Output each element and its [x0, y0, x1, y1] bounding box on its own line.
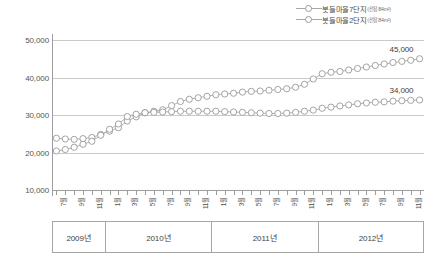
- year-label: 2011년: [253, 232, 277, 243]
- x-axis-tick-mark: [384, 191, 385, 195]
- x-axis-tick-label: 3월: [237, 197, 246, 206]
- x-axis-tick-label: 11월: [95, 197, 104, 209]
- gridline: [52, 78, 424, 79]
- legend-marker-icon: [296, 4, 322, 13]
- x-axis-tick-label: 3월: [343, 197, 352, 206]
- x-axis-tick-mark: [65, 191, 66, 195]
- x-axis-tick-mark: [136, 191, 137, 195]
- legend-sublabel-series-1: (전용84m²): [367, 5, 391, 12]
- gridline: [52, 153, 424, 154]
- x-axis-tick-mark: [145, 191, 146, 195]
- x-axis-tick-label: 1월: [325, 197, 334, 206]
- x-axis-tick-mark: [304, 191, 305, 195]
- y-axis-tick-label: 20,000: [3, 148, 49, 157]
- x-axis-tick-mark: [118, 191, 119, 195]
- x-axis-tick-mark: [340, 191, 341, 195]
- x-axis-tick-mark: [393, 191, 394, 195]
- x-axis-tick-mark: [251, 191, 252, 195]
- x-axis-tick-mark: [260, 191, 261, 195]
- x-axis-tick-mark: [198, 191, 199, 195]
- year-label: 2012년: [359, 232, 383, 243]
- year-separator: [318, 221, 319, 253]
- x-axis-tick-mark: [180, 191, 181, 195]
- x-axis-tick-label: 1월: [113, 197, 122, 206]
- x-axis-tick-mark: [225, 191, 226, 195]
- x-axis-tick-mark: [331, 191, 332, 195]
- x-axis-tick-mark: [278, 191, 279, 195]
- x-axis-tick-label: 5월: [254, 197, 263, 206]
- x-axis-tick-mark: [366, 191, 367, 195]
- x-axis-tick-label: 7월: [59, 197, 68, 206]
- x-axis-tick-mark: [296, 191, 297, 195]
- legend-label-series-2: 봇들마을2단지: [322, 15, 367, 25]
- x-axis-tick-mark: [269, 191, 270, 195]
- legend-item-series-2[interactable]: 봇들마을2단지 (전용84m²): [296, 14, 391, 25]
- x-axis-tick-mark: [83, 191, 84, 195]
- x-axis-tick-label: 5월: [148, 197, 157, 206]
- x-axis-tick-label: 9월: [183, 197, 192, 206]
- gridline: [52, 40, 424, 41]
- y-axis-tick-label: 10,000: [3, 186, 49, 195]
- x-axis-tick-mark: [242, 191, 243, 195]
- x-axis-tick-mark: [375, 191, 376, 195]
- x-axis-tick-mark: [216, 191, 217, 195]
- price-trend-chart: 봇들마을7단지 (전용84m²) 봇들마을2단지 (전용84m²) 10,000…: [0, 0, 437, 257]
- x-axis-tick-mark: [189, 191, 190, 195]
- year-label: 2010년: [146, 232, 170, 243]
- end-value-label-series-1: 45,000: [390, 45, 414, 54]
- x-axis-tick-label: 9월: [290, 197, 299, 206]
- x-axis-tick-mark: [349, 191, 350, 195]
- legend-item-series-1[interactable]: 봇들마을7단지 (전용84m²): [296, 3, 391, 14]
- x-axis-tick-mark: [56, 191, 57, 195]
- chart-legend: 봇들마을7단지 (전용84m²) 봇들마을2단지 (전용84m²): [296, 2, 434, 26]
- x-axis-tick-mark: [411, 191, 412, 195]
- x-axis-tick-mark: [420, 191, 421, 195]
- y-axis-tick-label: 40,000: [3, 73, 49, 82]
- x-axis-ticks: 7월9월11월1월3월5월7월9월11월1월3월5월7월9월11월1월3월5월7…: [52, 191, 424, 221]
- year-label: 2009년: [66, 232, 90, 243]
- legend-marker-icon: [296, 15, 322, 24]
- plot-area: [52, 40, 424, 190]
- x-axis-tick-label: 7월: [272, 197, 281, 206]
- x-axis-tick-mark: [127, 191, 128, 195]
- x-axis-tick-mark: [101, 191, 102, 195]
- year-separator: [105, 221, 106, 253]
- x-axis-tick-label: 11월: [307, 197, 316, 209]
- x-axis-tick-mark: [322, 191, 323, 195]
- x-axis-tick-label: 1월: [219, 197, 228, 206]
- x-axis-tick-mark: [92, 191, 93, 195]
- gridline: [52, 115, 424, 116]
- x-axis-tick-mark: [313, 191, 314, 195]
- x-axis-tick-mark: [172, 191, 173, 195]
- year-separator: [211, 221, 212, 253]
- legend-label-series-1: 봇들마을7단지: [322, 4, 367, 14]
- x-axis-tick-mark: [234, 191, 235, 195]
- y-axis-line: [52, 34, 53, 196]
- end-value-label-series-2: 34,000: [390, 86, 414, 95]
- x-axis-tick-mark: [74, 191, 75, 195]
- x-axis-tick-label: 11월: [201, 197, 210, 209]
- legend-sublabel-series-2: (전용84m²): [367, 16, 391, 23]
- x-axis-tick-label: 7월: [166, 197, 175, 206]
- y-axis-tick-label: 30,000: [3, 111, 49, 120]
- x-axis-tick-mark: [207, 191, 208, 195]
- x-axis-tick-label: 11월: [414, 197, 423, 209]
- y-axis-tick-label: 50,000: [3, 36, 49, 45]
- x-axis-tick-mark: [287, 191, 288, 195]
- x-axis-tick-label: 3월: [130, 197, 139, 206]
- x-axis-tick-mark: [402, 191, 403, 195]
- x-axis-tick-mark: [358, 191, 359, 195]
- year-group-band: 2009년2010년2011년2012년: [52, 221, 424, 253]
- x-axis-tick-label: 9월: [77, 197, 86, 206]
- x-axis-tick-mark: [163, 191, 164, 195]
- x-axis-tick-label: 7월: [378, 197, 387, 206]
- x-axis-tick-mark: [110, 191, 111, 195]
- x-axis-tick-label: 9월: [396, 197, 405, 206]
- x-axis-tick-label: 5월: [361, 197, 370, 206]
- x-axis-tick-mark: [154, 191, 155, 195]
- y-axis-ticks: 10,00020,00030,00040,00050,000: [0, 0, 49, 257]
